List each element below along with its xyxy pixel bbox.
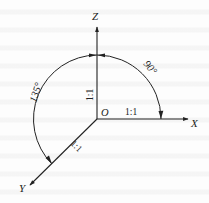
arrowhead-y-end — [46, 156, 53, 165]
angle-90-label: 90° — [141, 58, 159, 77]
z-axis-label: Z — [92, 10, 99, 22]
origin-label: O — [101, 107, 109, 118]
y-axis-label: Y — [19, 182, 27, 194]
y-scale-label: 1:1 — [69, 138, 85, 154]
arrowhead-x-end — [159, 111, 164, 119]
z-scale-label: 1:1 — [85, 89, 95, 101]
x-axis-label: X — [190, 117, 199, 129]
x-scale-label: 1:1 — [125, 107, 137, 117]
angle-135-label: 135° — [27, 80, 44, 103]
arc-135-degrees — [34, 55, 97, 164]
y-axis — [30, 119, 97, 185]
diagram-canvas: Z X Y O 1:1 1:1 1:1 135° 90° — [0, 0, 209, 203]
axes-diagram: Z X Y O 1:1 1:1 1:1 135° 90° — [0, 0, 209, 203]
